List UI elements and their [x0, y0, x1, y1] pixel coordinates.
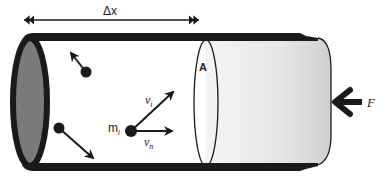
cylinder-bottom-wall [22, 163, 318, 171]
normal-velocity-label: vn [144, 135, 153, 151]
molecule-bottom [54, 123, 94, 159]
velocity-label: vi [145, 93, 153, 109]
force-label: F [366, 95, 376, 110]
piston-region [205, 38, 331, 165]
mass-label: mi [108, 121, 120, 137]
molecule-top [71, 53, 92, 78]
cylinder-end-cap [13, 38, 47, 166]
displacement-label: Δx [103, 4, 117, 18]
cylinder-diagram: Δx A mi vi vn [0, 0, 386, 181]
force-arrow [335, 90, 362, 114]
area-label: A [199, 61, 207, 73]
cylinder-top-wall [22, 33, 318, 41]
